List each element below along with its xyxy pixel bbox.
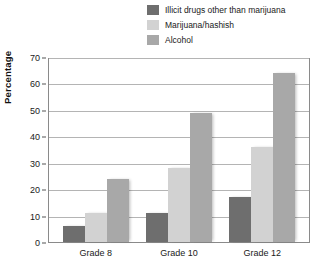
y-axis-tick-label: 20 <box>30 186 40 195</box>
x-axis-labels: Grade 8Grade 10Grade 12 <box>48 248 310 264</box>
y-axis-tick-mark <box>42 58 46 59</box>
y-axis-tick-mark <box>42 243 46 244</box>
y-axis-tick-label: 30 <box>30 159 40 168</box>
legend-item[interactable]: Marijuana/hashish <box>147 18 285 31</box>
bar-group <box>146 59 212 242</box>
legend-swatch-icon <box>147 35 159 45</box>
y-axis-tick-mark <box>42 190 46 191</box>
chart-legend: Illicit drugs other than marijuanaMariju… <box>147 3 285 46</box>
y-axis-tick-label: 40 <box>30 133 40 142</box>
bar[interactable] <box>251 147 273 242</box>
legend-swatch-icon <box>147 5 159 15</box>
y-axis-tick-label: 70 <box>30 54 40 63</box>
legend-item-label: Alcohol <box>165 35 193 45</box>
y-axis-tick-label: 60 <box>30 80 40 89</box>
legend-item[interactable]: Illicit drugs other than marijuana <box>147 3 285 16</box>
x-axis-tick-label: Grade 10 <box>146 248 212 264</box>
y-axis-tick-mark <box>42 216 46 217</box>
bar[interactable] <box>229 197 251 242</box>
bar[interactable] <box>168 168 190 242</box>
bar-group <box>63 59 129 242</box>
x-axis-tick-label: Grade 8 <box>63 248 129 264</box>
bar[interactable] <box>146 213 168 242</box>
y-axis-tick-mark <box>42 110 46 111</box>
y-axis-title: Percentage <box>2 51 13 104</box>
y-axis-tick-mark <box>42 163 46 164</box>
legend-item[interactable]: Alcohol <box>147 33 285 46</box>
x-axis-tick-label: Grade 12 <box>229 248 295 264</box>
bar-group <box>229 59 295 242</box>
legend-item-label: Marijuana/hashish <box>165 20 234 30</box>
bar[interactable] <box>107 179 129 242</box>
y-axis-tick-label: 0 <box>35 239 40 248</box>
legend-swatch-icon <box>147 20 159 30</box>
bar[interactable] <box>63 226 85 242</box>
y-axis-tick-mark <box>42 84 46 85</box>
bar[interactable] <box>85 213 107 242</box>
y-axis-tick-label: 50 <box>30 106 40 115</box>
chart-plot-area <box>48 58 310 243</box>
bar[interactable] <box>273 73 295 242</box>
bar[interactable] <box>190 113 212 243</box>
legend-item-label: Illicit drugs other than marijuana <box>165 5 285 15</box>
bar-groups <box>49 59 309 242</box>
y-axis-tick-mark <box>42 137 46 138</box>
y-axis-tick-label: 10 <box>30 212 40 221</box>
